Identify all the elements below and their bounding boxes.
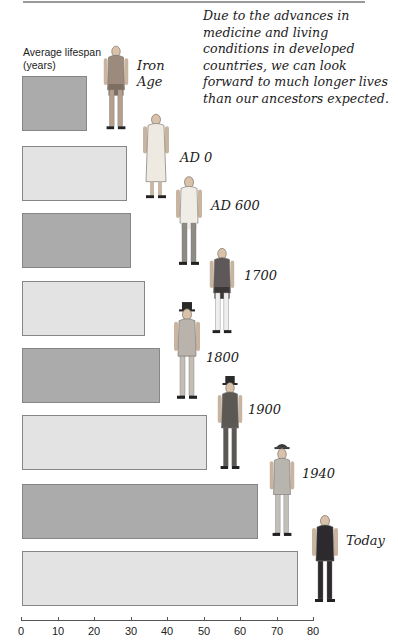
x-tick-label: 80: [307, 625, 319, 637]
x-tick-label: 0: [18, 625, 24, 637]
x-tick: [167, 617, 168, 621]
era-label: Today: [346, 533, 385, 549]
era-label: 1700: [244, 268, 277, 284]
roman-toga-figure-icon: [139, 106, 173, 207]
era-label: 1940: [302, 466, 335, 482]
lifespan-bar: [22, 551, 298, 606]
y-axis-label: Average lifespan (years): [23, 46, 103, 72]
era-label: IronAge: [137, 58, 165, 90]
era-label: 1800: [206, 350, 239, 366]
era-label: AD 0: [180, 150, 212, 166]
x-tick-label: 40: [161, 625, 173, 637]
x-tick: [21, 617, 22, 621]
lifespan-bar: [22, 281, 145, 336]
lifespan-bar: [22, 213, 131, 268]
top-hat-suit-figure-icon: [170, 300, 204, 408]
lifespan-bar: [22, 484, 258, 539]
x-tick: [240, 617, 241, 621]
x-tick: [58, 617, 59, 621]
x-tick-label: 50: [198, 625, 210, 637]
modern-suit-figure-icon: [308, 507, 342, 611]
lifespan-bar: [22, 415, 207, 470]
x-tick: [277, 617, 278, 621]
x-tick: [204, 617, 205, 621]
lifespan-bar: [22, 146, 127, 201]
era-label: 1900: [248, 402, 281, 418]
lifespan-bar: [22, 348, 160, 403]
caption-text: Due to the advances in medicine and livi…: [203, 8, 393, 108]
x-tick-label: 60: [234, 625, 246, 637]
x-tick: [313, 617, 314, 621]
lifespan-bar: [22, 76, 87, 131]
x-tick: [94, 617, 95, 621]
x-tick-label: 70: [271, 625, 283, 637]
coat-breeches-figure-icon: [206, 240, 238, 342]
fedora-suit-figure-icon: [266, 440, 298, 545]
x-tick-label: 30: [125, 625, 137, 637]
tunic-figure-icon: [172, 168, 206, 274]
bowler-hat-suit-figure-icon: [214, 374, 246, 478]
x-tick-label: 10: [52, 625, 64, 637]
x-tick-label: 20: [88, 625, 100, 637]
top-rule: [23, 1, 365, 3]
era-label: AD 600: [211, 198, 260, 214]
iron-age-man-figure-icon: [100, 38, 132, 138]
x-tick: [131, 617, 132, 621]
